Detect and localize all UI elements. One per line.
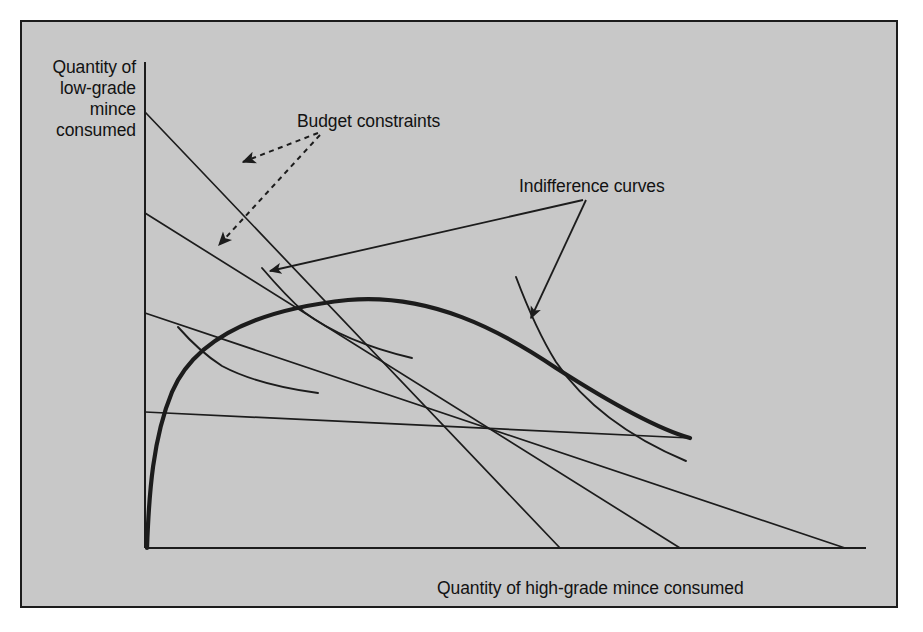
figure-root: Quantity of low-grade mince consumed Qua… [0, 0, 923, 632]
budget-constraints-label: Budget constraints [297, 111, 440, 132]
y-axis-label: Quantity of low-grade mince consumed [18, 57, 136, 141]
x-axis-label: Quantity of high-grade mince consumed [437, 578, 857, 599]
figure-frame [20, 20, 898, 608]
indifference-curves-label: Indifference curves [519, 176, 665, 197]
